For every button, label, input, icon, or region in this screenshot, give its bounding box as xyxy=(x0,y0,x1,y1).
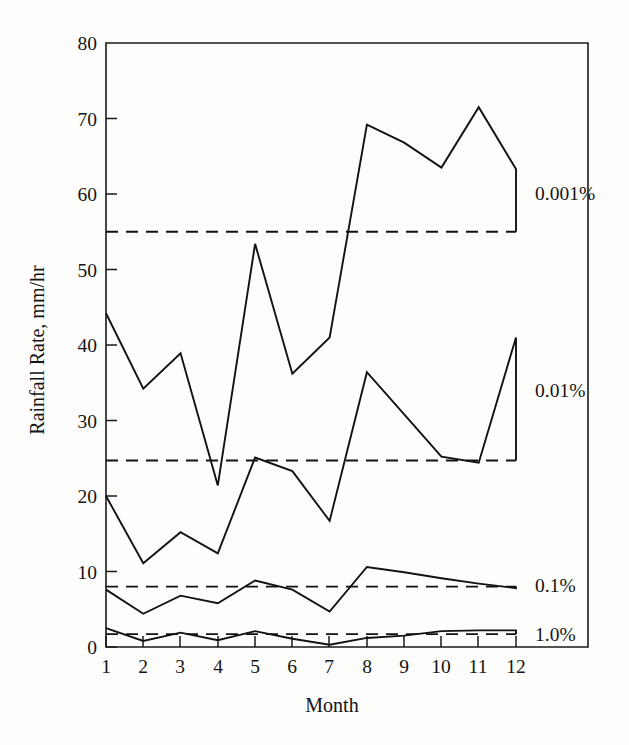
x-tick-label-10: 10 xyxy=(431,656,451,677)
series-lines xyxy=(106,107,516,645)
series-line-1-0 xyxy=(106,628,516,645)
series-label-1-0: 1.0% xyxy=(535,624,576,645)
x-tick-label-8: 8 xyxy=(362,656,372,677)
x-tick-label-4: 4 xyxy=(213,656,223,677)
y-tick-label-0: 0 xyxy=(87,637,97,658)
y-axis-tick-labels: 0 10 20 30 40 50 60 70 80 xyxy=(78,33,98,658)
x-tick-label-7: 7 xyxy=(324,656,334,677)
y-tick-label-40: 40 xyxy=(78,335,98,356)
x-tick-label-3: 3 xyxy=(175,656,185,677)
x-tick-label-2: 2 xyxy=(138,656,148,677)
x-tick-label-1: 1 xyxy=(101,656,111,677)
series-label-0-01: 0.01% xyxy=(535,380,585,401)
y-tick-label-70: 70 xyxy=(78,109,98,130)
y-axis-title: Rainfall Rate, mm/hr xyxy=(26,265,48,435)
y-tick-label-10: 10 xyxy=(78,562,98,583)
x-tick-label-9: 9 xyxy=(399,656,409,677)
x-tick-label-12: 12 xyxy=(506,656,526,677)
x-tick-label-11: 11 xyxy=(469,656,488,677)
y-tick-label-30: 30 xyxy=(78,411,98,432)
y-axis-ticks xyxy=(106,119,117,648)
y-tick-label-20: 20 xyxy=(78,486,98,507)
series-line-0-1 xyxy=(106,567,516,614)
y-tick-label-80: 80 xyxy=(78,33,98,54)
series-line-0-01 xyxy=(106,337,516,563)
y-tick-label-60: 60 xyxy=(78,184,98,205)
chart-canvas: 0 10 20 30 40 50 60 70 80 1 xyxy=(0,0,629,745)
threshold-lines xyxy=(106,232,516,634)
series-label-0-1: 0.1% xyxy=(535,575,576,596)
x-tick-label-6: 6 xyxy=(287,656,297,677)
x-axis-title: Month xyxy=(305,694,358,716)
series-line-0-001 xyxy=(106,107,516,485)
x-axis-tick-labels: 1 2 3 4 5 6 7 8 9 10 11 12 xyxy=(101,656,526,677)
rainfall-rate-chart-figure: 0 10 20 30 40 50 60 70 80 1 xyxy=(0,0,629,745)
series-label-0-001: 0.001% xyxy=(535,183,595,204)
series-labels: 0.001% 0.01% 0.1% 1.0% xyxy=(535,183,595,645)
x-tick-label-5: 5 xyxy=(250,656,260,677)
y-tick-label-50: 50 xyxy=(78,260,98,281)
